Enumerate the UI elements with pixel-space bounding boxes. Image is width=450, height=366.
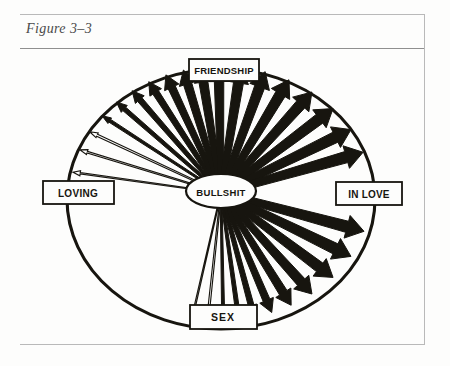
figure-page: Figure 3–3 BULLSHIT FRIENDSHIP IN LOVE bbox=[0, 0, 450, 366]
node-in-love-label: IN LOVE bbox=[348, 189, 390, 200]
node-sex-label: SEX bbox=[211, 311, 235, 323]
node-friendship[interactable]: FRIENDSHIP bbox=[189, 59, 259, 81]
node-loving-label: LOVING bbox=[58, 188, 98, 199]
center-node: BULLSHIT bbox=[186, 174, 256, 208]
radial-arrow bbox=[191, 193, 221, 318]
node-sex[interactable]: SEX bbox=[190, 305, 257, 329]
figure-canvas: BULLSHIT FRIENDSHIP IN LOVE SEX LOVING bbox=[0, 0, 450, 366]
node-loving[interactable]: LOVING bbox=[43, 181, 114, 204]
radial-arrow bbox=[206, 193, 222, 320]
center-node-label: BULLSHIT bbox=[196, 187, 245, 198]
node-in-love[interactable]: IN LOVE bbox=[336, 182, 402, 205]
node-friendship-label: FRIENDSHIP bbox=[194, 65, 254, 76]
